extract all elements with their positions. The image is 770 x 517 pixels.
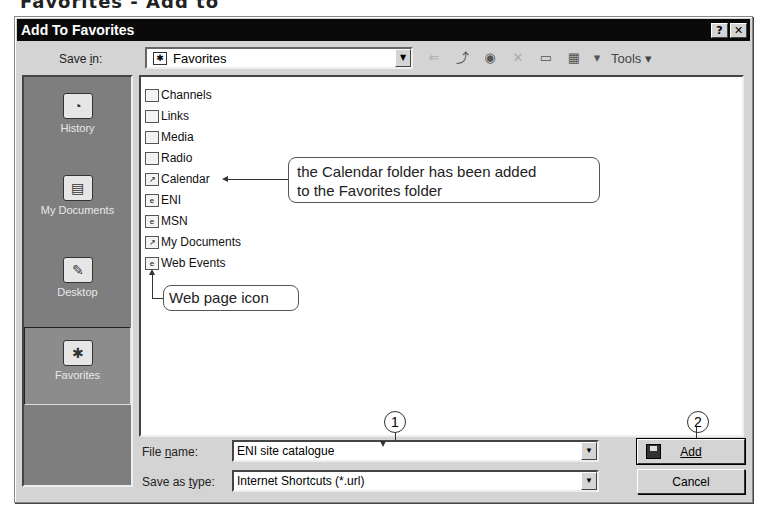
- step-1-marker: 1: [384, 411, 406, 433]
- delete-icon[interactable]: ✕: [509, 49, 527, 67]
- up-one-level-icon[interactable]: ⤴: [453, 49, 471, 67]
- tools-menu[interactable]: Tools ▾: [611, 51, 652, 66]
- callout-arrow-line: [227, 179, 289, 180]
- places-item-history[interactable]: ◔ History: [24, 81, 131, 159]
- web-page-icon-callout: Web page icon: [163, 285, 299, 311]
- list-item[interactable]: Channels: [145, 85, 212, 105]
- cancel-button[interactable]: Cancel: [637, 469, 745, 494]
- arrowhead: [222, 176, 228, 182]
- places-item-label: Favorites: [55, 369, 100, 381]
- folder-icon: [145, 89, 159, 102]
- add-to-favorites-dialog: Add To Favorites ? ✕ Save in: ✱ Favorite…: [14, 16, 753, 503]
- chevron-down-icon[interactable]: ▼: [395, 49, 411, 67]
- save-in-value: Favorites: [173, 51, 226, 66]
- save-disk-icon: [646, 444, 661, 459]
- back-icon[interactable]: ⇐: [425, 49, 443, 67]
- places-item-desktop[interactable]: ✎ Desktop: [24, 245, 131, 323]
- title-bar: Add To Favorites ? ✕: [17, 19, 750, 41]
- dialog-title: Add To Favorites: [17, 22, 134, 38]
- step-2-marker: 2: [687, 411, 709, 433]
- search-web-icon[interactable]: ◉: [481, 49, 499, 67]
- file-name-label: File name:: [142, 445, 198, 459]
- views-icon[interactable]: ▦: [565, 49, 583, 67]
- toolbar: ⇐ ⤴ ◉ ✕ ▭ ▦ ▾ Tools ▾: [425, 47, 652, 69]
- places-item-label: My Documents: [41, 204, 114, 216]
- list-item[interactable]: ↗Calendar: [145, 169, 210, 189]
- views-dropdown-icon[interactable]: ▾: [593, 49, 601, 67]
- chevron-down-icon[interactable]: ▼: [581, 472, 597, 490]
- chevron-down-icon: ▾: [645, 51, 652, 66]
- web-page-icon: e: [145, 194, 159, 207]
- places-item-my-documents[interactable]: ▤ My Documents: [24, 163, 131, 241]
- folder-icon: [145, 110, 159, 123]
- places-bar: ◔ History ▤ My Documents ✎ Desktop ✱ Fav…: [22, 75, 133, 487]
- shortcut-folder-icon: ↗: [145, 236, 159, 249]
- places-item-favorites[interactable]: ✱ Favorites: [24, 327, 131, 405]
- folder-icon: [145, 131, 159, 144]
- list-item[interactable]: Links: [145, 106, 189, 126]
- save-in-label: Save in:: [59, 52, 102, 66]
- save-as-type-label: Save as type:: [142, 475, 215, 489]
- list-item[interactable]: ↗My Documents: [145, 232, 241, 252]
- chevron-down-icon[interactable]: ▼: [581, 442, 597, 460]
- page-heading-cropped: Favorites - Add to: [20, 0, 219, 12]
- calendar-callout: the Calendar folder has been added to th…: [288, 157, 600, 203]
- shortcut-icon: ↗: [145, 173, 159, 186]
- help-button[interactable]: ?: [711, 23, 728, 38]
- desktop-icon: ✎: [63, 257, 93, 283]
- file-name-input[interactable]: ENI site catalogue ▼: [232, 440, 599, 462]
- places-item-label: Desktop: [57, 286, 97, 298]
- list-item[interactable]: eWeb Events: [145, 253, 225, 273]
- step-2-arrow: [696, 427, 697, 438]
- web-page-icon: e: [145, 257, 159, 270]
- close-button[interactable]: ✕: [730, 23, 747, 38]
- add-button[interactable]: Add: [637, 439, 745, 464]
- list-item[interactable]: Media: [145, 127, 194, 147]
- callout-arrow-line: [152, 274, 153, 298]
- save-in-dropdown[interactable]: ✱ Favorites ▼: [145, 47, 413, 69]
- favorites-icon: ✱: [63, 340, 93, 366]
- folder-icon: [145, 152, 159, 165]
- my-documents-icon: ▤: [63, 175, 93, 201]
- favorites-folder-icon: ✱: [153, 52, 167, 65]
- list-item[interactable]: Radio: [145, 148, 192, 168]
- web-page-icon: e: [145, 215, 159, 228]
- create-new-folder-icon[interactable]: ▭: [537, 49, 555, 67]
- tools-label: Tools: [611, 51, 641, 66]
- history-icon: ◔: [63, 93, 93, 119]
- list-item[interactable]: eENI: [145, 190, 181, 210]
- file-list[interactable]: Channels Links Media Radio ↗Calendar eEN…: [139, 75, 744, 437]
- arrowhead: [380, 441, 386, 447]
- save-as-type-dropdown[interactable]: Internet Shortcuts (*.url) ▼: [232, 470, 599, 492]
- list-item[interactable]: eMSN: [145, 211, 188, 231]
- places-item-label: History: [60, 122, 94, 134]
